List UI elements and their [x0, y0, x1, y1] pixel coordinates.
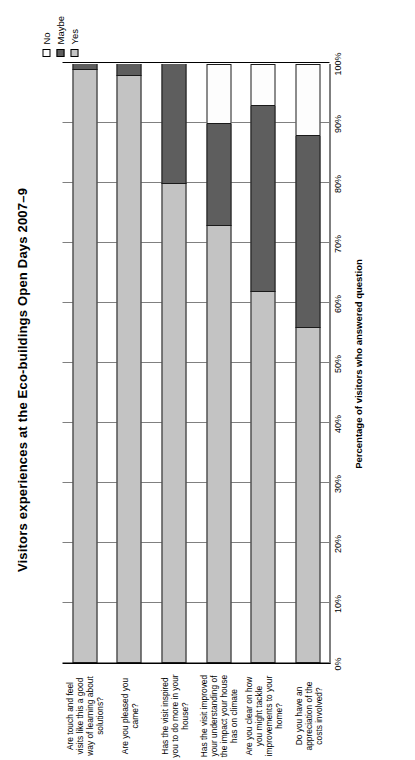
bar-row[interactable]: [250, 64, 275, 663]
bar-segment-yes[interactable]: [295, 328, 320, 663]
bar-segment-maybe[interactable]: [250, 106, 275, 292]
bar-segment-maybe[interactable]: [295, 136, 320, 328]
category-label: Are you pleased you came?: [119, 672, 139, 760]
category-label: Are you clear on how you might tackle im…: [243, 672, 283, 760]
legend-swatch-yes: [70, 49, 78, 57]
value-axis-tick-label: 90%: [332, 115, 342, 133]
value-axis-tick-label: 70%: [332, 235, 342, 253]
bar-segment-maybe[interactable]: [161, 64, 186, 184]
bar-segment-maybe[interactable]: [206, 124, 231, 226]
bar-segment-yes[interactable]: [72, 70, 97, 663]
bar-segment-no[interactable]: [206, 64, 231, 124]
plot-area: [62, 64, 330, 664]
bar-row[interactable]: [72, 64, 97, 663]
category-label: Are touch and feel visits like this a go…: [64, 672, 104, 760]
bar-segment-no[interactable]: [250, 64, 275, 106]
bar-segment-maybe[interactable]: [116, 64, 141, 76]
bar-segment-yes[interactable]: [116, 76, 141, 663]
bar-row[interactable]: [116, 64, 141, 663]
category-label: Has the visit inspired you to do more in…: [159, 672, 189, 760]
chart-figure: Visitors experiences at the Eco-building…: [0, 0, 415, 760]
value-axis-ticks: 0%10%20%30%40%50%60%70%80%90%100%: [332, 64, 348, 664]
legend-swatch-no: [42, 49, 50, 57]
value-axis-tick-label: 0%: [332, 657, 342, 670]
value-axis-tick-label: 30%: [332, 475, 342, 493]
plot-frame: [62, 64, 330, 664]
legend-item-yes: Yes: [68, 16, 79, 57]
bar-segment-no[interactable]: [295, 64, 320, 136]
bar-row[interactable]: [295, 64, 320, 663]
legend-label-no: No: [40, 32, 51, 44]
legend-label-maybe: Maybe: [54, 16, 65, 45]
bar-segment-yes[interactable]: [250, 292, 275, 663]
chart-title: Visitors experiences at the Eco-building…: [14, 0, 29, 760]
gridline: [62, 62, 329, 63]
value-axis-tick-label: 80%: [332, 175, 342, 193]
category-axis-labels: Are touch and feel visits like this a go…: [62, 668, 330, 760]
value-axis-title: Percentage of visitors who answered ques…: [352, 64, 363, 664]
legend-label-yes: Yes: [68, 29, 79, 45]
bar-series-group: [62, 64, 329, 663]
value-axis-tick-label: 40%: [332, 415, 342, 433]
bar-row[interactable]: [206, 64, 231, 663]
value-axis-tick-label: 20%: [332, 535, 342, 553]
category-label: Has the visit improved your understandin…: [198, 672, 238, 760]
value-axis-tick-label: 100%: [332, 52, 342, 75]
bar-row[interactable]: [161, 64, 186, 663]
bar-segment-maybe[interactable]: [72, 64, 97, 70]
value-axis-tick-label: 60%: [332, 295, 342, 313]
value-axis-tick-label: 10%: [332, 595, 342, 613]
bar-segment-yes[interactable]: [206, 226, 231, 663]
legend-item-maybe: Maybe: [54, 16, 65, 57]
category-label: Do you have an appreciation of the costs…: [293, 672, 323, 760]
rotated-figure-container: Visitors experiences at the Eco-building…: [0, 0, 415, 760]
value-axis-tick-label: 50%: [332, 355, 342, 373]
chart-legend: No Maybe Yes: [40, 16, 79, 57]
legend-swatch-maybe: [56, 49, 64, 57]
legend-item-no: No: [40, 16, 51, 57]
bar-segment-yes[interactable]: [161, 184, 186, 663]
